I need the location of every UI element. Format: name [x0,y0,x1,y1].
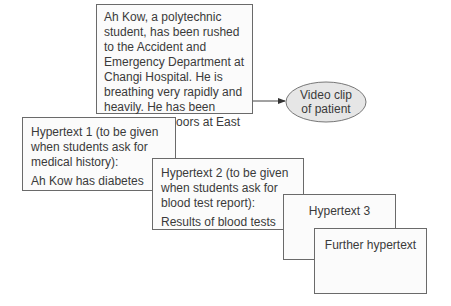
hypertext-2-body: Results of blood tests [161,215,295,230]
video-clip-node[interactable]: Video clip of patient [286,82,366,122]
video-label-line2: of patient [286,102,366,116]
further-hypertext-heading: Further hypertext [323,238,418,253]
hypertext-3-heading: Hypertext 3 [292,204,387,219]
hypertext-1-body: Ah Kow has diabetes [31,174,167,189]
hypertext-1-heading: Hypertext 1 (to be given when students a… [31,125,167,170]
hypertext-2-box[interactable]: Hypertext 2 (to be given when students a… [152,158,304,230]
hypertext-2-heading: Hypertext 2 (to be given when students a… [161,166,295,211]
further-hypertext-box[interactable]: Further hypertext [314,228,427,294]
scenario-box: Ah Kow, a polytechnic student, has been … [96,4,253,114]
video-label-line1: Video clip [286,88,366,102]
